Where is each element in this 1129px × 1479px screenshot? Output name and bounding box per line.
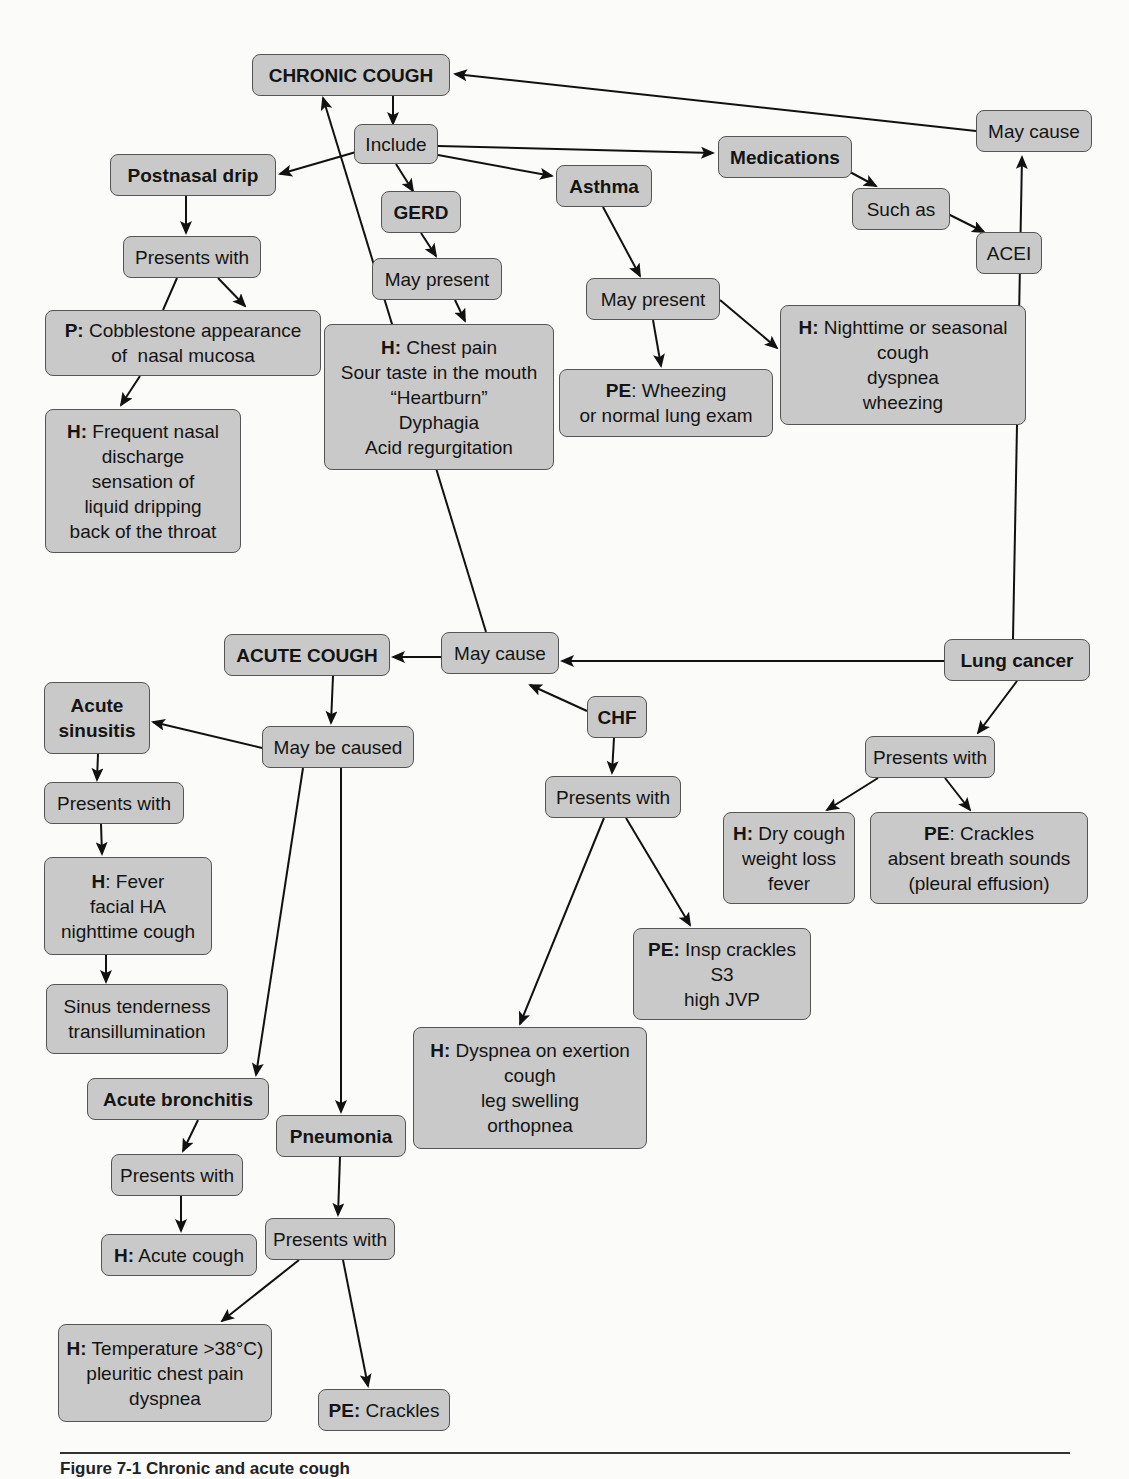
node-label-prefix: H: bbox=[798, 317, 818, 338]
edge-arrow bbox=[827, 778, 878, 810]
node-label-text: absent breath sounds bbox=[888, 848, 1071, 869]
node-label-text: ACUTE COUGH bbox=[236, 645, 377, 666]
node-label-prefix: H bbox=[92, 871, 106, 892]
node-pe-lung-cancer: PE: Cracklesabsent breath sounds(pleural… bbox=[870, 812, 1088, 904]
node-label-text: Insp crackles bbox=[680, 939, 796, 960]
node-h-pneumonia: H: Temperature >38°C)pleuritic chest pai… bbox=[58, 1324, 272, 1422]
node-label-text: dyspnea bbox=[129, 1388, 201, 1409]
node-label-prefix: H: bbox=[67, 421, 87, 442]
edge-arrow bbox=[256, 768, 303, 1075]
node-label-text: Dyphagia bbox=[399, 412, 479, 433]
node-text-line: Dyphagia bbox=[399, 410, 479, 435]
node-label-text: “Heartburn” bbox=[390, 387, 487, 408]
node-label-text: of nasal mucosa bbox=[111, 345, 255, 366]
node-text-line: orthopnea bbox=[487, 1113, 573, 1138]
node-h-lung-cancer: H: Dry coughweight lossfever bbox=[723, 812, 855, 904]
node-label-text: : Crackles bbox=[949, 823, 1033, 844]
node-label-text: Acute bbox=[71, 695, 124, 716]
node-label-prefix: P: bbox=[65, 320, 84, 341]
node-text-line: Such as bbox=[867, 197, 936, 222]
node-text-line: H: Chest pain bbox=[381, 335, 497, 360]
edge-arrow bbox=[520, 818, 604, 1024]
node-label-text: Pneumonia bbox=[290, 1126, 392, 1147]
node-label-text: discharge bbox=[102, 446, 184, 467]
node-text-line: May be caused bbox=[274, 735, 403, 760]
node-text-line: (pleural effusion) bbox=[908, 871, 1049, 896]
edge-arrow bbox=[153, 722, 262, 748]
node-label-prefix: PE bbox=[924, 823, 949, 844]
node-label-text: Sour taste in the mouth bbox=[341, 362, 537, 383]
node-presents-with-sin: Presents with bbox=[44, 782, 184, 824]
node-text-line: discharge bbox=[102, 444, 184, 469]
node-h-acute-cough: H: Acute cough bbox=[101, 1234, 257, 1276]
edge-arrow bbox=[331, 676, 333, 723]
node-may-cause-top: May cause bbox=[976, 110, 1092, 152]
node-text-line: Presents with bbox=[120, 1163, 234, 1188]
node-label-text: Frequent nasal bbox=[87, 421, 219, 442]
node-asthma: Asthma bbox=[556, 165, 652, 207]
node-label-text: Dyspnea on exertion bbox=[450, 1040, 630, 1061]
node-text-line: facial HA bbox=[90, 894, 166, 919]
edge-arrow bbox=[101, 824, 102, 854]
node-presents-with-pn: Presents with bbox=[265, 1218, 395, 1260]
edge-arrow bbox=[626, 818, 690, 925]
node-label-text: Include bbox=[365, 134, 426, 155]
node-text-line: Presents with bbox=[273, 1227, 387, 1252]
node-text-line: Presents with bbox=[57, 791, 171, 816]
node-label-text: CHF bbox=[597, 707, 636, 728]
node-text-line: May present bbox=[385, 267, 490, 292]
node-label-text: : Fever bbox=[105, 871, 164, 892]
node-label-text: leg swelling bbox=[481, 1090, 579, 1111]
node-pe-pneumonia: PE: Crackles bbox=[318, 1389, 450, 1431]
node-pneumonia: Pneumonia bbox=[276, 1115, 406, 1157]
node-text-line: leg swelling bbox=[481, 1088, 579, 1113]
node-text-line: “Heartburn” bbox=[390, 385, 487, 410]
node-label-text: Presents with bbox=[135, 247, 249, 268]
node-label-text: facial HA bbox=[90, 896, 166, 917]
edge-arrow bbox=[396, 164, 413, 191]
node-text-line: Medications bbox=[730, 145, 840, 170]
node-text-line: H: Acute cough bbox=[114, 1243, 244, 1268]
node-label-text: Presents with bbox=[57, 793, 171, 814]
node-text-line: Presents with bbox=[556, 785, 670, 810]
edge-arrow bbox=[530, 685, 587, 711]
node-label-text: : Wheezing bbox=[631, 380, 726, 401]
node-label-text: Dry cough bbox=[753, 823, 845, 844]
node-text-line: Pneumonia bbox=[290, 1124, 392, 1149]
node-text-line: absent breath sounds bbox=[888, 846, 1071, 871]
node-label-prefix: PE: bbox=[329, 1400, 361, 1421]
node-presents-with-lc: Presents with bbox=[865, 736, 995, 778]
node-text-line: dyspnea bbox=[867, 365, 939, 390]
node-text-line: transillumination bbox=[68, 1019, 205, 1044]
node-pe-asthma: PE: Wheezingor normal lung exam bbox=[559, 369, 773, 437]
node-text-line: Acid regurgitation bbox=[365, 435, 513, 460]
node-label-text: Cobblestone appearance bbox=[84, 320, 302, 341]
node-label-text: fever bbox=[768, 873, 810, 894]
node-acei: ACEI bbox=[976, 232, 1042, 274]
node-label-text: Temperature >38°C) bbox=[87, 1338, 264, 1359]
node-label-text: CHRONIC COUGH bbox=[269, 65, 434, 86]
node-label-text: May present bbox=[601, 289, 706, 310]
node-text-line: Acute bronchitis bbox=[103, 1087, 253, 1112]
edge-arrow bbox=[121, 376, 140, 405]
node-label-text: sensation of bbox=[92, 471, 194, 492]
node-include: Include bbox=[354, 124, 438, 164]
edge-arrow bbox=[183, 1120, 198, 1151]
node-text-line: Sour taste in the mouth bbox=[341, 360, 537, 385]
node-label-prefix: H: bbox=[430, 1040, 450, 1061]
node-text-line: Presents with bbox=[873, 745, 987, 770]
edge-arrow bbox=[720, 300, 777, 348]
node-label-text: May present bbox=[385, 269, 490, 290]
node-label-text: Asthma bbox=[569, 176, 639, 197]
node-sinus-tenderness: Sinus tendernesstransillumination bbox=[46, 984, 228, 1054]
node-label-text: ACEI bbox=[987, 243, 1031, 264]
edge-arrow bbox=[343, 1260, 368, 1386]
node-text-line: S3 bbox=[710, 962, 733, 987]
node-label-text: Acute cough bbox=[134, 1245, 244, 1266]
node-text-line: H: Dyspnea on exertion bbox=[430, 1038, 630, 1063]
node-text-line: Lung cancer bbox=[961, 648, 1074, 673]
edge-arrow bbox=[948, 214, 984, 232]
node-label-text: back of the throat bbox=[70, 521, 217, 542]
node-text-line: H: Frequent nasal bbox=[67, 419, 219, 444]
node-may-cause-mid: May cause bbox=[441, 632, 559, 674]
